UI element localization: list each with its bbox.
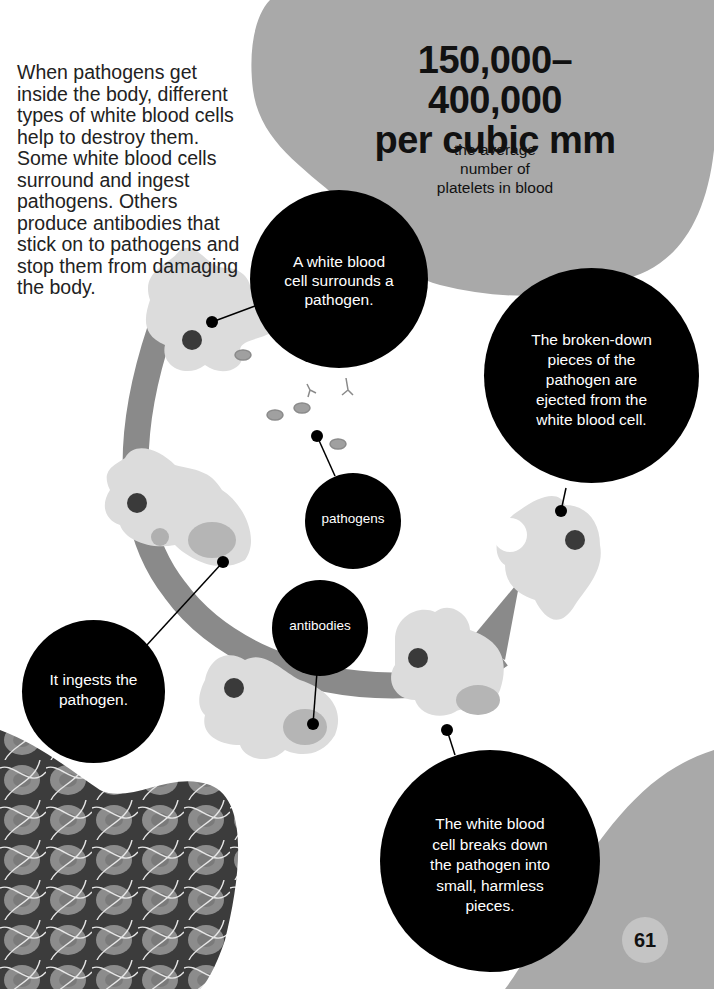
step-bubble-ingest: It ingests the pathogen.: [22, 620, 165, 763]
step3-line: the pathogen into: [430, 855, 550, 876]
step-bubble-breakdown: The white blood cell breaks down the pat…: [380, 750, 600, 972]
step3-line: pieces.: [430, 896, 550, 917]
step3-line: The white blood: [430, 814, 550, 835]
step4-line: ejected from the: [531, 390, 652, 410]
intro-paragraph: When pathogens get inside the body, diff…: [17, 62, 242, 299]
step-bubble-ejected: The broken-down pieces of the pathogen a…: [484, 268, 699, 483]
antibodies-label: antibodies: [289, 618, 351, 633]
step1-line: A white blood: [284, 252, 393, 271]
step4-line: pathogen are: [531, 370, 652, 390]
caption-line1: the average: [420, 140, 570, 159]
step2-line: It ingests the: [50, 670, 138, 690]
step3-line: small, harmless: [430, 876, 550, 897]
page-number: 61: [622, 917, 668, 963]
step1-line: pathogen.: [284, 290, 393, 309]
stat-value-line1: 150,000–400,000: [360, 40, 630, 120]
step2-line: pathogen.: [50, 690, 138, 710]
caption-line2: number of: [420, 159, 570, 178]
step4-line: white blood cell.: [531, 410, 652, 430]
label-bubble-pathogens: pathogens: [305, 473, 401, 569]
step-bubble-surround: A white blood cell surrounds a pathogen.: [250, 190, 428, 368]
step1-line: cell surrounds a: [284, 271, 393, 290]
blood-clot-photo: [0, 730, 238, 989]
platelet-count-caption: the average number of platelets in blood: [420, 140, 570, 197]
step3-line: cell breaks down: [430, 835, 550, 856]
label-bubble-antibodies: antibodies: [272, 580, 368, 676]
pathogens-label: pathogens: [321, 511, 384, 526]
step4-line: The broken-down: [531, 330, 652, 350]
step4-line: pieces of the: [531, 350, 652, 370]
caption-line3: platelets in blood: [420, 178, 570, 197]
